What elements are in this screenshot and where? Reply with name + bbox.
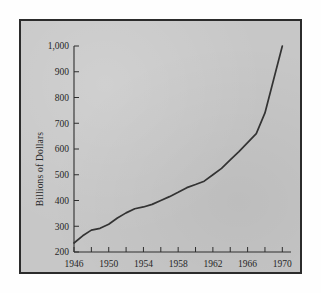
x-tick-label: 1970	[273, 259, 292, 269]
y-tick-label: 600	[55, 144, 70, 154]
x-tick-label: 1950	[99, 259, 118, 269]
y-tick-label: 900	[55, 67, 70, 77]
x-tick-label: 1962	[203, 259, 222, 269]
x-tick-label: 1946	[65, 259, 84, 269]
x-tick-label: 1966	[238, 259, 257, 269]
data-series-line	[74, 46, 282, 243]
y-tick-label: 700	[55, 119, 70, 129]
y-tick-label: 400	[55, 196, 70, 206]
x-tick-label: 1954	[134, 259, 153, 269]
figure-container: Billions of Dollars 20030040050060070080…	[0, 0, 321, 293]
y-axis-tick-labels: 2003004005006007008009001,000	[48, 41, 70, 257]
y-tick-label: 500	[55, 170, 70, 180]
y-tick-label: 300	[55, 222, 70, 232]
y-tick-label: 800	[55, 93, 70, 103]
y-tick-label: 200	[55, 247, 70, 257]
x-tick-label: 1958	[169, 259, 188, 269]
x-axis-tick-labels: 1946195019541958196219661970	[65, 259, 293, 269]
y-axis-title: Billions of Dollars	[35, 132, 45, 207]
line-chart: Billions of Dollars 20030040050060070080…	[19, 19, 302, 274]
y-tick-label: 1,000	[48, 41, 70, 51]
x-axis-tick-marks	[74, 247, 282, 252]
y-axis-tick-marks	[74, 46, 79, 252]
